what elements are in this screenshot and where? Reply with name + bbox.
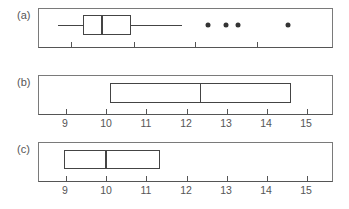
tick [227, 109, 228, 114]
tick [257, 42, 258, 47]
tick-label: 13 [220, 117, 232, 129]
tick-label: 15 [300, 117, 312, 129]
tick [66, 109, 67, 114]
panel-c-label: (c) [17, 143, 30, 155]
tick-label: 13 [220, 184, 232, 196]
panel-a-outlier [206, 23, 211, 28]
panel-a-label: (a) [17, 9, 30, 21]
tick [227, 176, 228, 181]
tick [307, 109, 308, 114]
tick-label: 12 [180, 184, 192, 196]
tick-label: 14 [260, 184, 272, 196]
tick [187, 176, 188, 181]
panel-c-box [64, 150, 160, 169]
panel-a-box [83, 15, 131, 35]
panel-a-upper-whisker [131, 25, 182, 27]
tick-label: 15 [300, 184, 312, 196]
tick [195, 42, 196, 47]
panel-b-label: (b) [17, 76, 30, 88]
tick-label: 9 [62, 184, 68, 196]
tick [106, 176, 107, 181]
panel-c-median [105, 150, 107, 169]
tick-label: 12 [180, 117, 192, 129]
tick-label: 11 [141, 117, 152, 129]
tick [146, 176, 147, 181]
panel-a-outlier [236, 23, 241, 28]
tick-label: 10 [100, 184, 112, 196]
panel-a-median [101, 15, 103, 35]
panel-a-lower-whisker [58, 25, 84, 27]
tick [71, 42, 72, 47]
tick [106, 109, 107, 114]
panel-a-outlier [224, 23, 229, 28]
tick [267, 109, 268, 114]
tick [66, 176, 67, 181]
tick [146, 109, 147, 114]
panel-a-outlier [286, 23, 291, 28]
tick-label: 14 [260, 117, 272, 129]
tick [134, 42, 135, 47]
panel-b-median [200, 83, 202, 103]
tick-label: 10 [100, 117, 112, 129]
tick [267, 176, 268, 181]
tick [307, 176, 308, 181]
tick [187, 109, 188, 114]
tick-label: 9 [62, 117, 68, 129]
tick-label: 11 [141, 184, 152, 196]
